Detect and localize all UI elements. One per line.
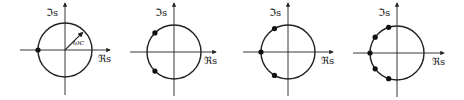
- radius-label: ωc: [73, 38, 85, 47]
- pole-marker: [272, 73, 277, 78]
- imag-axis-label: ℑs: [155, 7, 167, 18]
- pole-marker: [367, 50, 372, 55]
- pole-marker: [272, 26, 277, 31]
- real-axis-label: ℜs: [321, 55, 334, 66]
- pole-marker: [386, 25, 391, 30]
- imag-axis-label: ℑs: [46, 7, 58, 18]
- pole-marker: [152, 30, 157, 35]
- imag-axis-label: ℑs: [269, 7, 281, 18]
- pole-marker: [386, 76, 391, 81]
- pole-marker: [373, 35, 378, 40]
- real-axis-label: ℜs: [98, 53, 111, 64]
- real-axis-label: ℜs: [204, 55, 217, 66]
- pole-marker: [258, 49, 263, 54]
- pole-zero-diagrams: ℑsℜsωcℑsℜsℑsℜsℑsℜs: [0, 0, 464, 100]
- pole-marker: [152, 68, 157, 73]
- panel-order-3: ℑsℜs: [243, 3, 334, 96]
- pole-marker: [35, 47, 40, 52]
- real-axis-label: ℜs: [432, 56, 445, 67]
- imag-axis-label: ℑs: [378, 7, 390, 18]
- panel-order-2: ℑsℜs: [130, 3, 217, 96]
- pole-marker: [373, 66, 378, 71]
- panel-order-1: ℑsℜsωc: [20, 3, 111, 95]
- panel-order-4: ℑsℜs: [353, 3, 445, 97]
